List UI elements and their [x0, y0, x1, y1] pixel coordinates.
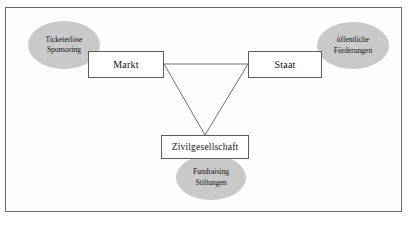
connector-markt-zivilgesellschaft: [164, 64, 205, 135]
source-ellipse-zivilgesellschaft: Fundraising Stiftungen: [176, 155, 246, 200]
node-markt-label: Markt: [113, 59, 138, 70]
node-zivilgesellschaft: Zivilgesellschaft: [161, 135, 249, 159]
node-staat: Staat: [248, 51, 322, 78]
source-ellipse-zivilgesellschaft-line1: Fundraising: [193, 167, 229, 177]
source-ellipse-markt-line1: Ticketerlöse: [46, 35, 83, 45]
source-ellipse-staat-line1: öffentliche: [337, 35, 369, 45]
diagram-canvas: Ticketerlöse Sponsoring öffentliche Förd…: [0, 0, 413, 227]
node-staat-label: Staat: [275, 59, 296, 70]
node-zivilgesellschaft-label: Zivilgesellschaft: [172, 142, 239, 152]
source-ellipse-zivilgesellschaft-line2: Stiftungen: [195, 178, 226, 188]
source-ellipse-staat: öffentliche Förderungen: [317, 22, 389, 69]
source-ellipse-staat-line2: Förderungen: [334, 46, 372, 56]
source-ellipse-markt-line2: Sponsoring: [47, 45, 81, 55]
node-markt: Markt: [88, 51, 164, 78]
connector-staat-zivilgesellschaft: [205, 64, 248, 135]
